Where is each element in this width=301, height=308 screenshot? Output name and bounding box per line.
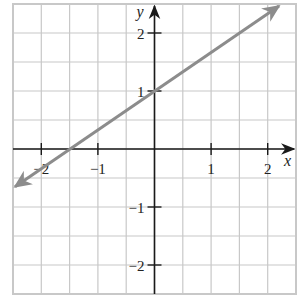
tick-labels: −2−11221−1−2xy bbox=[33, 3, 291, 274]
y-tick-label: 2 bbox=[137, 26, 145, 42]
x-tick-label: −1 bbox=[90, 161, 106, 177]
x-axis-label: x bbox=[283, 152, 291, 169]
axes bbox=[13, 6, 294, 294]
plot-area: −2−11221−1−2xy bbox=[0, 0, 301, 308]
y-tick-label: −1 bbox=[129, 200, 145, 216]
x-tick-label: 1 bbox=[207, 161, 215, 177]
y-tick-label: −2 bbox=[129, 258, 145, 274]
coordinate-graph: −2−11221−1−2xy bbox=[0, 0, 301, 308]
x-tick-label: 2 bbox=[264, 161, 272, 177]
y-axis-label: y bbox=[135, 3, 145, 21]
